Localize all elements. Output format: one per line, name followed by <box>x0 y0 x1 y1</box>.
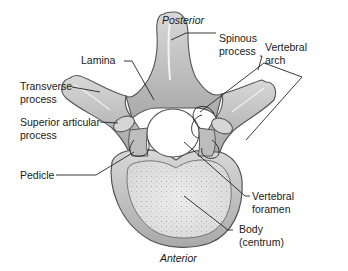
label-lamina: Lamina <box>81 54 116 66</box>
label-vertebral-arch-2: arch <box>265 54 286 66</box>
label-spinous-process-2: process <box>219 45 256 57</box>
label-body-1: Body <box>239 223 264 235</box>
label-superior-articular-2: process <box>20 129 57 141</box>
vertebra-diagram: Posterior Anterior Spinous process Lamin… <box>0 0 348 271</box>
label-spinous-process-1: Spinous <box>219 32 257 44</box>
label-body-2: (centrum) <box>239 236 284 248</box>
label-pedicle: Pedicle <box>20 169 55 181</box>
label-anterior: Anterior <box>159 252 197 264</box>
label-transverse-process-2: process <box>20 93 57 105</box>
vertebral-body <box>111 149 242 247</box>
label-vertebral-foramen-2: foramen <box>252 203 291 215</box>
vertebral-foramen <box>147 109 199 157</box>
label-vertebral-arch-1: Vertebral <box>265 41 307 53</box>
label-transverse-process-1: Transverse <box>20 80 72 92</box>
label-posterior: Posterior <box>162 14 205 26</box>
label-vertebral-foramen-1: Vertebral <box>252 190 294 202</box>
label-superior-articular-1: Superior articular <box>20 116 100 128</box>
